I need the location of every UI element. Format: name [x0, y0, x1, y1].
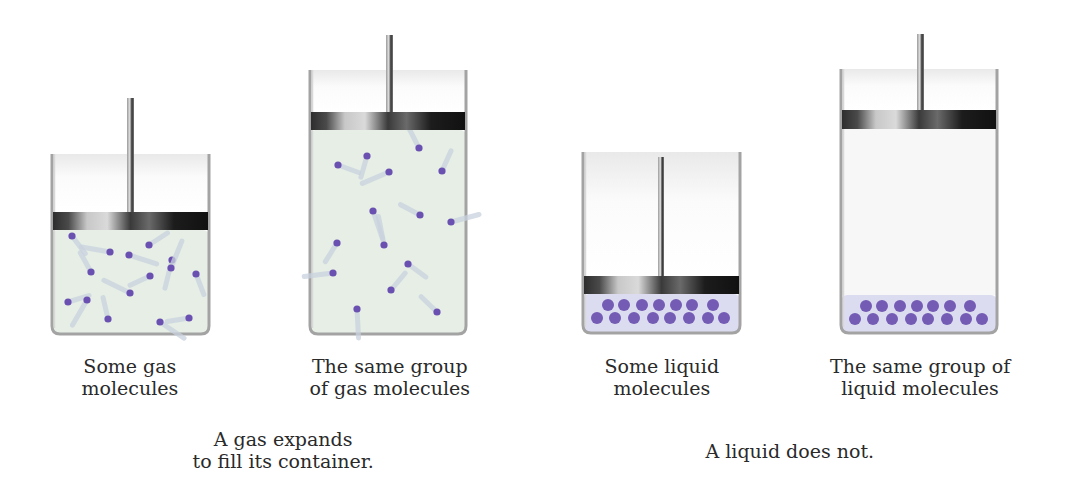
- caption-liquid-large: The same group ofliquid molecules: [830, 355, 1010, 399]
- piston: [842, 110, 996, 129]
- liquid-molecule: [636, 299, 648, 311]
- caption-liquid-large-line: liquid molecules: [830, 377, 1010, 399]
- piston-rod: [127, 98, 134, 212]
- motion-trail: [357, 309, 359, 338]
- gas-summary-line: A gas expands: [193, 428, 374, 450]
- liquid-molecule: [922, 313, 934, 325]
- gas-summary: A gas expandsto fill its container.: [193, 428, 374, 472]
- liquid-molecule: [964, 300, 976, 312]
- liquid-molecule: [664, 312, 676, 324]
- liquid-molecule: [911, 300, 923, 312]
- liquid-molecule: [653, 299, 665, 311]
- liquid-molecule: [976, 313, 988, 325]
- piston-rod: [386, 35, 393, 112]
- gas-molecule: [185, 314, 192, 321]
- container-liquid-small: [583, 152, 740, 333]
- caption-gas-large-line: The same group: [310, 355, 471, 377]
- caption-gas-large: The same groupof gas molecules: [310, 355, 471, 399]
- gas-molecule: [433, 308, 440, 315]
- gas-molecule: [64, 298, 71, 305]
- liquid-molecule: [894, 300, 906, 312]
- liquid-molecule: [876, 300, 888, 312]
- gas-volume: [310, 130, 466, 334]
- gas-molecule: [83, 296, 90, 303]
- liquid-molecule: [647, 312, 659, 324]
- gas-molecule: [333, 239, 340, 246]
- gas-molecule: [106, 248, 113, 255]
- gas-molecule: [353, 305, 360, 312]
- caption-gas-small-line: molecules: [82, 377, 179, 399]
- gas-molecule: [192, 270, 199, 277]
- liquid-molecule: [686, 299, 698, 311]
- gas-molecule: [146, 272, 153, 279]
- liquid-molecule: [905, 313, 917, 325]
- liquid-molecule: [860, 300, 872, 312]
- liquid-summary-line: A liquid does not.: [706, 440, 875, 462]
- liquid-molecule: [609, 312, 621, 324]
- liquid-molecule: [702, 312, 714, 324]
- piston: [53, 212, 208, 230]
- gas-molecule: [363, 152, 370, 159]
- gas-molecule: [404, 260, 411, 267]
- gas-molecule: [380, 241, 387, 248]
- caption-gas-large-line: of gas molecules: [310, 377, 471, 399]
- gas-molecule: [167, 264, 174, 271]
- piston-rod: [658, 157, 664, 276]
- gas-molecule: [87, 268, 94, 275]
- gas-molecule: [387, 286, 394, 293]
- empty-volume: [841, 129, 997, 295]
- gas-molecule: [145, 241, 152, 248]
- gas-molecule: [385, 168, 392, 175]
- container-liquid-large: [841, 34, 997, 333]
- motion-trail: [304, 273, 333, 277]
- caption-liquid-large-line: The same group of: [830, 355, 1010, 377]
- container-gas-large: [304, 35, 479, 338]
- gas-molecule: [334, 161, 341, 168]
- gas-molecule: [369, 207, 376, 214]
- liquid-molecule: [941, 313, 953, 325]
- liquid-molecule: [670, 299, 682, 311]
- caption-gas-small: Some gasmolecules: [82, 355, 179, 399]
- liquid-molecule: [618, 299, 630, 311]
- caption-liquid-small: Some liquidmolecules: [605, 355, 720, 399]
- gas-molecule: [415, 144, 422, 151]
- liquid-molecule: [591, 312, 603, 324]
- liquid-molecule: [944, 300, 956, 312]
- gas-molecule: [438, 167, 445, 174]
- gas-molecule: [125, 251, 132, 258]
- liquid-molecule: [927, 300, 939, 312]
- gas-molecule: [416, 211, 423, 218]
- caption-gas-small-line: Some gas: [82, 355, 179, 377]
- liquid-molecule: [602, 299, 614, 311]
- diagram-canvas: [0, 0, 1071, 486]
- piston: [311, 112, 465, 130]
- liquid-molecule: [718, 312, 730, 324]
- gas-molecule: [447, 218, 454, 225]
- gas-molecule: [126, 289, 133, 296]
- liquid-molecule: [628, 312, 640, 324]
- caption-liquid-small-line: molecules: [605, 377, 720, 399]
- piston: [584, 276, 739, 294]
- liquid-molecule: [960, 313, 972, 325]
- caption-liquid-small-line: Some liquid: [605, 355, 720, 377]
- liquid-molecule: [707, 299, 719, 311]
- liquid-summary: A liquid does not.: [706, 440, 875, 462]
- gas-molecule: [104, 315, 111, 322]
- gas-molecule: [68, 232, 75, 239]
- container-gas-small: [52, 98, 209, 338]
- liquid-molecule: [683, 312, 695, 324]
- gas-molecule: [156, 318, 163, 325]
- liquid-molecule: [886, 313, 898, 325]
- liquid-molecule: [867, 313, 879, 325]
- piston-rod: [917, 34, 924, 110]
- liquid-molecule: [849, 313, 861, 325]
- panels-layer: [52, 34, 997, 338]
- gas-molecule: [329, 269, 336, 276]
- gas-summary-line: to fill its container.: [193, 450, 374, 472]
